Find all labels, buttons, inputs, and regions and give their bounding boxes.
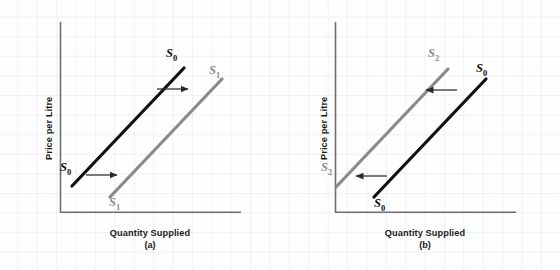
panel-a-caption: (a) [85, 240, 215, 250]
panel-b-curve-s2 [336, 69, 448, 187]
panel-a-label-s0-upper: S0 [166, 47, 177, 62]
panel-b-y-axis-title: Price per Litre [319, 97, 329, 160]
panel-b-label-s2-lower: S2 [321, 161, 332, 176]
panel-a-label-s0-lower: S0 [60, 161, 71, 176]
panel-a-x-axis-title: Quantity Supplied [85, 228, 215, 238]
panel-b-caption: (b) [360, 240, 490, 250]
panel-b-curve-s0 [374, 79, 486, 197]
panel-a-label-s1-upper: S1 [209, 64, 220, 79]
panel-a-curve-s0 [72, 68, 184, 186]
panel-a-y-axis-title: Price per Litre [44, 97, 54, 160]
supply-shift-figure: S0 S0 S1 S1 Price per Litre Quantity Sup… [0, 0, 560, 270]
panel-b-label-s2-upper: S2 [428, 47, 439, 62]
panel-b-label-s0-upper: S0 [476, 62, 487, 77]
panel-a-label-s1-lower: S1 [109, 196, 120, 211]
panel-b-x-axis-title: Quantity Supplied [360, 228, 490, 238]
panel-b-label-s0-lower: S0 [374, 197, 385, 212]
panel-b: S2 S2 S0 S0 Price per Litre Quantity Sup… [280, 0, 560, 270]
panel-a: S0 S0 S1 S1 Price per Litre Quantity Sup… [0, 0, 280, 270]
panel-a-curve-s1 [110, 79, 222, 197]
